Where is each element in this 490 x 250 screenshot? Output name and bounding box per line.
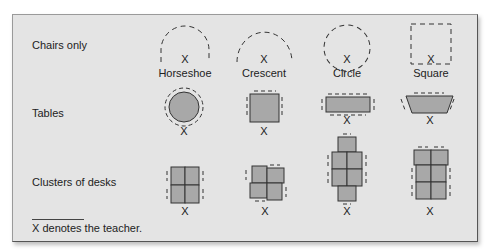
teacher-mark: X <box>337 114 357 126</box>
footnote-rule <box>32 219 84 220</box>
teacher-mark: X <box>175 53 195 65</box>
footnote: X denotes the teacher. <box>32 222 142 234</box>
square-table <box>250 94 279 122</box>
teacher-mark: X <box>421 53 441 65</box>
rectangle-table <box>326 97 370 112</box>
teacher-mark: X <box>174 125 194 137</box>
circle-table <box>169 92 199 122</box>
trapezoid-table <box>406 96 453 113</box>
caption-circle: Circle <box>307 67 387 79</box>
teacher-mark: X <box>175 205 195 217</box>
caption-horseshoe: Horseshoe <box>145 67 225 79</box>
teacher-mark: X <box>337 53 357 65</box>
teacher-mark: X <box>255 205 275 217</box>
teacher-mark: X <box>420 114 440 126</box>
teacher-mark: X <box>254 53 274 65</box>
caption-square: Square <box>391 67 471 79</box>
teacher-mark: X <box>420 205 440 217</box>
caption-crescent: Crescent <box>224 67 304 79</box>
seating-shapes <box>0 0 490 250</box>
teacher-mark: X <box>254 125 274 137</box>
teacher-mark: X <box>337 205 357 217</box>
